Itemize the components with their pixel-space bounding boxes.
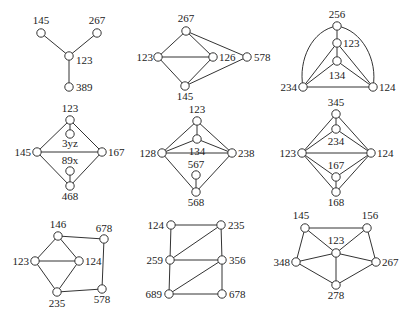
node-label: 689: [146, 288, 163, 300]
node-label: 123: [280, 147, 297, 159]
node-123: [333, 39, 341, 47]
edge-345-124: [336, 114, 371, 153]
node-267: [93, 29, 101, 37]
node-145: [33, 148, 41, 156]
edge-145-578: [185, 57, 247, 86]
edge-267-578: [186, 31, 247, 57]
node-label: 124: [85, 255, 102, 267]
node-label: 167: [108, 146, 125, 158]
edge-146-124: [58, 236, 79, 261]
node-label: 146: [50, 218, 67, 230]
node-label: 238: [238, 147, 255, 159]
edge-267-126: [186, 31, 213, 57]
node-label: 128: [140, 147, 157, 159]
node-134: [193, 135, 201, 143]
edge-259-689: [169, 260, 170, 294]
node-label: 123: [343, 37, 360, 49]
node-label: 578: [94, 293, 111, 305]
node-label: 578: [254, 51, 271, 63]
node-label: 389: [76, 81, 93, 93]
edge-126-145: [185, 57, 213, 86]
node-156: [363, 224, 371, 232]
node-label: 126: [219, 51, 236, 63]
node-345: [332, 110, 340, 118]
node-label: 356: [229, 254, 246, 266]
node-578: [243, 53, 251, 61]
node-167: [332, 173, 340, 181]
graph-g9: 145156123348267278: [274, 209, 400, 301]
node-label: 278: [328, 289, 345, 301]
node-356: [218, 256, 226, 264]
node-124: [367, 149, 375, 157]
node-label: 134: [329, 69, 346, 81]
node-label: 267: [178, 12, 195, 24]
edge-123-348: [296, 253, 336, 262]
graph-g3: 256123134234124: [281, 8, 397, 93]
node-145: [181, 82, 189, 90]
graph-g6: 345234123124167168: [280, 96, 395, 208]
node-label: 123: [62, 102, 79, 114]
graph-g1: 145267123389: [33, 14, 106, 93]
node-123: [31, 257, 39, 265]
edge-146-678: [58, 236, 104, 239]
node-label: 234: [328, 135, 345, 147]
node-label: 123: [76, 54, 93, 66]
node-123: [66, 116, 74, 124]
node-145: [37, 29, 45, 37]
node-134: [333, 57, 341, 65]
edges: [169, 225, 222, 294]
node-123: [65, 52, 73, 60]
node-259: [166, 256, 174, 264]
node-468: [66, 182, 74, 190]
node-label: 468: [62, 190, 79, 202]
node-label: 167: [328, 159, 345, 171]
node-234: [332, 125, 340, 133]
node-label: 267: [89, 14, 106, 26]
node-label: 145: [293, 209, 310, 221]
node-label: 123: [189, 103, 206, 115]
edge-146-123: [35, 236, 58, 261]
edge-345-123: [302, 114, 336, 153]
node-label: 168: [328, 196, 345, 208]
node-126: [209, 53, 217, 61]
edge-145-123: [41, 33, 69, 56]
edge-267-123: [158, 31, 186, 57]
node-238: [228, 149, 236, 157]
node-label: 89x: [62, 154, 79, 166]
node-label: 145: [33, 14, 50, 26]
edge-678-578: [102, 239, 104, 289]
node-689: [165, 290, 173, 298]
node-123: [332, 249, 340, 257]
node-567: [192, 171, 200, 179]
node-label: 123: [137, 51, 154, 63]
node-123: [193, 117, 201, 125]
node-label: 123: [13, 255, 30, 267]
node-123: [298, 149, 306, 157]
node-235: [217, 221, 225, 229]
node-label: 234: [281, 81, 298, 93]
node-678: [100, 235, 108, 243]
node-234: [299, 83, 307, 91]
node-146: [54, 232, 62, 240]
graph-g7: 146678123124235578: [13, 218, 113, 309]
node-label: 156: [362, 209, 379, 221]
node-label: 124: [377, 147, 394, 159]
node-89x: [66, 167, 74, 175]
edge-356-689: [169, 260, 222, 294]
node-label: 235: [228, 219, 245, 231]
node-168: [332, 188, 340, 196]
graph-figure: 1452671233892671231265781452561231342341…: [0, 0, 411, 323]
node-label: 678: [229, 288, 246, 300]
node-578: [98, 285, 106, 293]
edge-235-578: [57, 289, 102, 292]
node-256: [333, 22, 341, 30]
edge-348-278: [296, 262, 336, 285]
graph-g8: 124235259356689678: [146, 219, 247, 300]
node-label: 145: [177, 90, 194, 102]
edge-123-235: [35, 261, 57, 292]
node-label: 3yz: [62, 137, 78, 149]
node-167: [98, 148, 106, 156]
node-124: [369, 83, 377, 91]
node-235: [53, 288, 61, 296]
node-label: 345: [328, 96, 345, 108]
